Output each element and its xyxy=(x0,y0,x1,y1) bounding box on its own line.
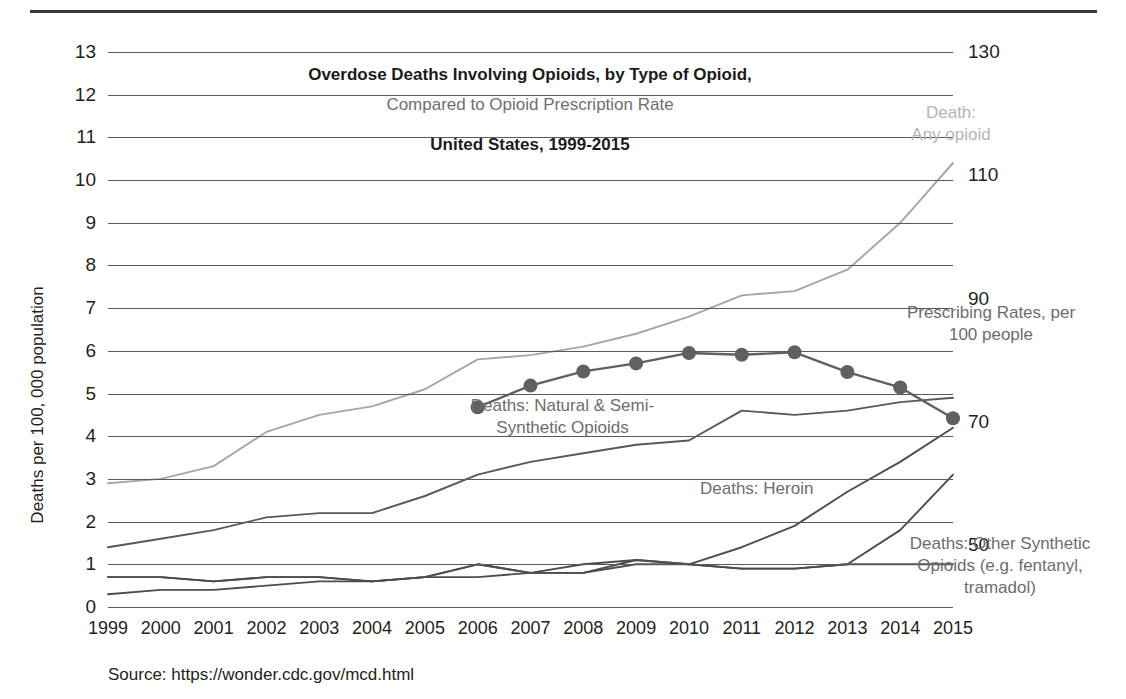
gridline xyxy=(108,52,953,53)
y-tick-label-left: 2 xyxy=(56,512,96,531)
x-tick-label: 2011 xyxy=(714,618,770,639)
data-point-marker xyxy=(576,364,590,378)
x-tick-label: 2008 xyxy=(555,618,611,639)
y-tick-label-right: 110 xyxy=(968,165,998,184)
header-divider xyxy=(30,10,1097,13)
data-point-marker xyxy=(840,365,854,379)
data-point-marker xyxy=(682,346,696,360)
y-tick-label-left: 13 xyxy=(56,42,96,61)
gridline xyxy=(108,265,953,266)
y-tick-label-left: 11 xyxy=(56,127,96,146)
y-tick-label-left: 9 xyxy=(56,213,96,232)
gridline xyxy=(108,180,953,181)
source-note: Source: https://wonder.cdc.gov/mcd.html xyxy=(108,665,414,685)
gridline xyxy=(108,308,953,309)
x-tick-label: 2001 xyxy=(186,618,242,639)
y-tick-label-left: 0 xyxy=(56,597,96,616)
x-tick-label: 2004 xyxy=(344,618,400,639)
x-tick-label: 2006 xyxy=(450,618,506,639)
gridline xyxy=(108,137,953,138)
series-line xyxy=(108,428,953,582)
gridline xyxy=(108,607,953,608)
y-tick-label-right: 50 xyxy=(968,535,989,554)
y-tick-label-left: 7 xyxy=(56,298,96,317)
gridline xyxy=(108,351,953,352)
chart-page: Deaths per 100, 000 population Overdose … xyxy=(0,0,1126,699)
x-tick-label: 2005 xyxy=(397,618,453,639)
x-tick-label: 2013 xyxy=(819,618,875,639)
gridline xyxy=(108,436,953,437)
gridline xyxy=(108,479,953,480)
gridline xyxy=(108,522,953,523)
y-tick-label-left: 10 xyxy=(56,170,96,189)
x-tick-label: 2007 xyxy=(503,618,559,639)
y-tick-label-right: 70 xyxy=(968,412,989,431)
y-tick-label-left: 1 xyxy=(56,554,96,573)
x-tick-label: 2014 xyxy=(872,618,928,639)
y-tick-label-left: 5 xyxy=(56,384,96,403)
data-point-marker xyxy=(946,411,960,425)
plot-area xyxy=(108,52,953,607)
gridline xyxy=(108,394,953,395)
x-tick-label: 2012 xyxy=(767,618,823,639)
series-line xyxy=(108,398,953,547)
y-tick-label-left: 4 xyxy=(56,426,96,445)
y-tick-label-left: 6 xyxy=(56,341,96,360)
x-tick-label: 2003 xyxy=(291,618,347,639)
x-tick-label: 2002 xyxy=(238,618,294,639)
gridline xyxy=(108,223,953,224)
y-tick-label-left: 3 xyxy=(56,469,96,488)
data-point-marker xyxy=(524,379,538,393)
series-line xyxy=(108,163,953,483)
y-tick-label-right: 130 xyxy=(968,42,1000,61)
x-tick-label: 1999 xyxy=(80,618,136,639)
data-point-marker xyxy=(471,400,485,414)
series-line xyxy=(108,560,953,581)
y-axis-title: Deaths per 100, 000 population xyxy=(28,195,48,615)
data-point-marker xyxy=(788,345,802,359)
x-tick-label: 2010 xyxy=(661,618,717,639)
y-tick-label-left: 8 xyxy=(56,255,96,274)
data-point-marker xyxy=(629,356,643,370)
series-line xyxy=(478,352,953,418)
data-point-marker xyxy=(893,380,907,394)
series-line xyxy=(108,475,953,595)
y-tick-label-left: 12 xyxy=(56,85,96,104)
x-tick-label: 2000 xyxy=(133,618,189,639)
chart-lines-svg xyxy=(108,52,953,607)
gridline xyxy=(108,95,953,96)
y-tick-label-right: 90 xyxy=(968,289,989,308)
x-tick-label: 2015 xyxy=(925,618,981,639)
gridline xyxy=(108,564,953,565)
x-tick-label: 2009 xyxy=(608,618,664,639)
